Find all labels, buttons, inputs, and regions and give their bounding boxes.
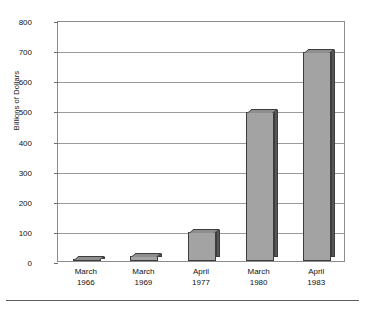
bar-top-face [131,253,162,257]
x-axis-tick-month: April [193,267,209,276]
y-axis-tick-label: 600 [0,78,32,87]
y-axis-tick-label: 400 [0,138,32,147]
y-axis-tick-mark [54,112,58,113]
x-axis-tick-year: 1983 [281,277,351,288]
bar-side-face [274,110,278,257]
bar-chart-figure: Billions of Dollars 80070060050040030020… [0,0,365,315]
y-axis-tick-label: 200 [0,198,32,207]
bar [246,112,274,261]
y-axis-tick-mark [54,173,58,174]
y-axis-tick-mark [54,143,58,144]
gridline [58,173,344,174]
footer-divider [6,300,359,301]
y-axis-tick-mark [54,233,58,234]
gridline [58,143,344,144]
gridline [58,52,344,53]
y-axis-tick-mark [54,82,58,83]
x-axis-tick-month: March [75,267,97,276]
y-axis-tick-mark [54,263,58,264]
y-axis-tick-mark [54,203,58,204]
bar [73,259,101,261]
bar [188,232,216,261]
gridline [58,112,344,113]
y-axis-tick-label: 0 [0,259,32,268]
plot-area: 8007006005004003002001000 [57,21,345,262]
bar-side-face [216,230,220,257]
x-axis-tick-month: March [247,267,269,276]
gridline [58,82,344,83]
bar-side-face [331,50,335,257]
y-axis-tick-mark [54,52,58,53]
bar-top-face [74,256,105,260]
x-axis-tick-label: April1983 [281,266,351,288]
bar-top-face [304,49,335,53]
y-axis-tick-label: 500 [0,108,32,117]
y-axis-tick-label: 100 [0,228,32,237]
x-axis-tick-month: April [308,267,324,276]
bar-top-face [189,229,220,233]
y-axis-tick-label: 700 [0,48,32,57]
bar-top-face [247,109,278,113]
y-axis-tick-mark [54,22,58,23]
bar [130,256,158,261]
y-axis-tick-label: 800 [0,18,32,27]
gridline [58,203,344,204]
bar [303,52,331,261]
x-axis-tick-month: March [132,267,154,276]
y-axis-tick-label: 300 [0,168,32,177]
